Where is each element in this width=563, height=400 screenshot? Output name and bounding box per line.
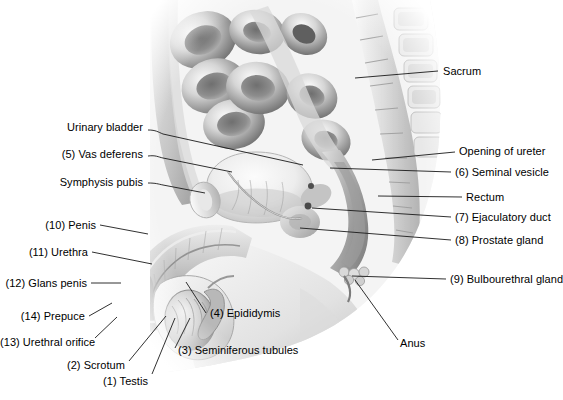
label-epididymis: (4) Epididymis	[210, 308, 280, 319]
label-rectum: Rectum	[466, 192, 504, 203]
label-sacrum: Sacrum	[443, 66, 481, 77]
label-scrotum: (2) Scrotum	[0, 360, 125, 371]
body-section	[118, 0, 443, 400]
label-urethral-orifice: (13) Urethral orifice	[0, 337, 91, 348]
label-bulbourethral-gland: (9) Bulbourethral gland	[450, 274, 563, 285]
label-vas-deferens: (5) Vas deferens	[0, 149, 143, 160]
label-urethra: (11) Urethra	[0, 247, 88, 258]
prepuce-structure	[118, 274, 126, 300]
label-ejaculatory-duct: (7) Ejaculatory duct	[455, 212, 551, 223]
leader-urethral-orifice	[95, 317, 117, 338]
label-glans-penis: (12) Glans penis	[0, 278, 87, 289]
label-penis: (10) Penis	[0, 220, 96, 231]
label-opening-of-ureter: Opening of ureter	[459, 146, 545, 157]
label-testis: (1) Testis	[0, 376, 148, 387]
leader-urethra	[92, 252, 152, 264]
glans-penis-structure	[122, 269, 153, 318]
leader-penis	[100, 225, 148, 234]
label-seminal-vesicle: (6) Seminal vesicle	[455, 167, 549, 178]
label-anus: Anus	[400, 338, 425, 349]
leader-prepuce	[89, 303, 112, 316]
label-symphysis-pubis: Symphysis pubis	[0, 177, 143, 188]
label-prostate-gland: (8) Prostate gland	[455, 235, 543, 246]
urethral-orifice-structure	[127, 311, 135, 317]
label-urinary-bladder: Urinary bladder	[0, 122, 143, 133]
label-prepuce: (14) Prepuce	[0, 311, 85, 322]
label-seminiferous-tubules: (3) Seminiferous tubules	[178, 345, 298, 356]
